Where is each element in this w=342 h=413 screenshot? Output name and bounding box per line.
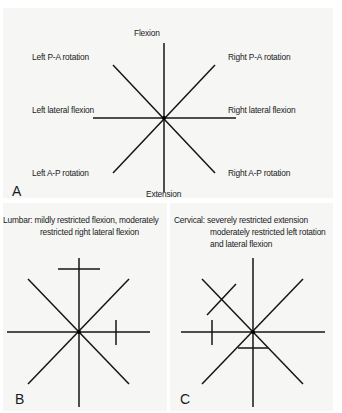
panel-c-star-diagram — [0, 0, 342, 413]
center-point — [251, 330, 255, 334]
panel-letter-c: C — [180, 392, 190, 406]
